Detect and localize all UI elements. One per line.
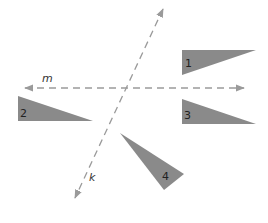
triangle-3: 3 xyxy=(182,99,256,124)
line-m-label: m xyxy=(42,72,53,85)
line-m: m xyxy=(25,72,244,88)
transformation-diagram: m k 1 2 3 4 xyxy=(0,0,268,223)
triangle-4: 4 xyxy=(120,133,184,190)
triangle-4-label: 4 xyxy=(162,170,169,183)
triangle-2-label: 2 xyxy=(20,107,27,120)
triangle-1-label: 1 xyxy=(185,57,192,70)
triangle-2: 2 xyxy=(18,96,93,121)
triangle-3-label: 3 xyxy=(184,109,191,122)
triangle-1: 1 xyxy=(182,50,256,75)
line-k-label: k xyxy=(89,171,96,184)
